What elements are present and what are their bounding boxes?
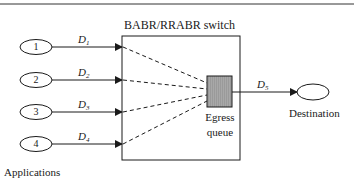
switch-title: BABR/RRABR switch	[124, 19, 235, 31]
egress-queue	[207, 76, 232, 107]
source-label-1: 1	[20, 42, 52, 52]
flow-label-d5: D5	[257, 79, 268, 92]
destination-label: Destination	[289, 108, 340, 119]
destination-node	[297, 84, 329, 100]
source-label-4: 4	[20, 139, 52, 149]
applications-label: Applications	[4, 167, 60, 178]
flow-label-d3: D3	[78, 99, 89, 112]
source-label-3: 3	[20, 107, 52, 117]
flow-label-d2: D2	[78, 67, 89, 80]
flow-label-d1: D1	[78, 34, 89, 47]
queue-label-line2: queue	[195, 127, 245, 138]
internal-path-1	[123, 47, 207, 83]
internal-path-3	[123, 95, 207, 112]
flow-label-d4: D4	[78, 131, 89, 144]
internal-path-2	[123, 80, 207, 89]
queue-label-line1: Egress	[195, 112, 245, 123]
source-label-2: 2	[20, 75, 52, 85]
